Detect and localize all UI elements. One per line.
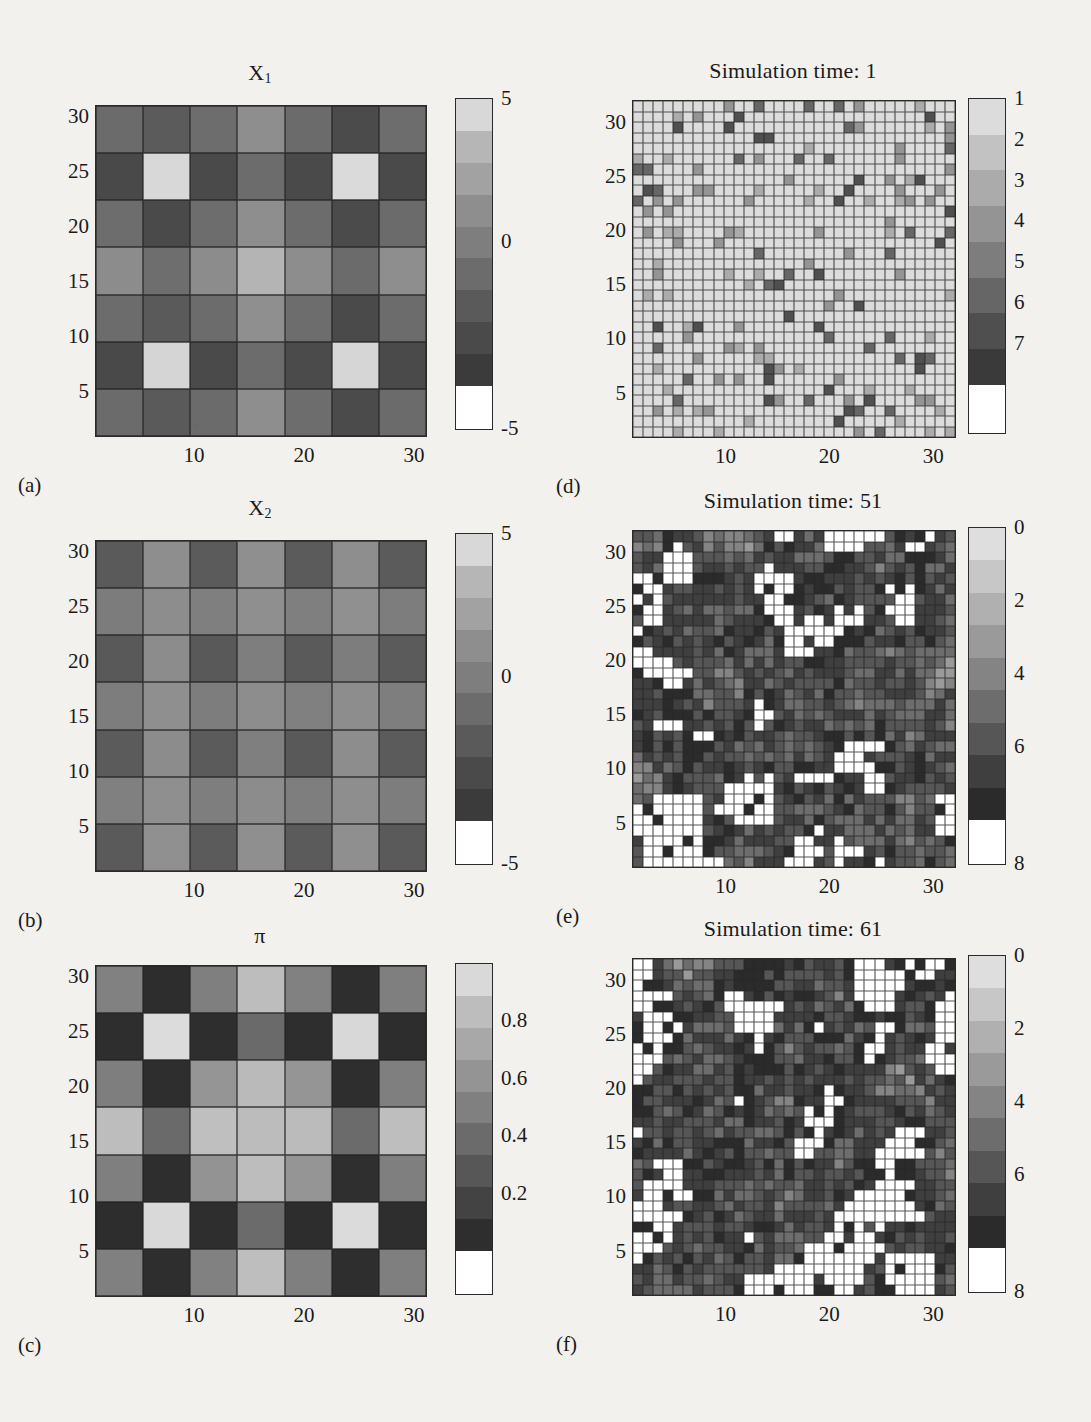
heatmap-cell — [784, 1127, 794, 1138]
heatmap-cell — [633, 1085, 643, 1096]
heatmap-cell — [784, 959, 794, 970]
heatmap-cell — [885, 1274, 895, 1285]
heatmap-cell — [854, 1201, 864, 1212]
heatmap-cell — [643, 1001, 653, 1012]
heatmap-cell — [754, 1138, 764, 1149]
heatmap-cell — [673, 1054, 683, 1065]
heatmap-cell — [774, 1022, 784, 1033]
heatmap-cell — [673, 1274, 683, 1285]
heatmap-cell — [663, 959, 673, 970]
heatmap-cell — [895, 1033, 905, 1044]
heatmap-cell — [875, 1001, 885, 1012]
heatmap-cell — [663, 1190, 673, 1201]
heatmap-cell — [935, 1043, 945, 1054]
heatmap-cell — [734, 1169, 744, 1180]
heatmap-cell — [653, 1001, 663, 1012]
heatmap-cell — [794, 1264, 804, 1275]
heatmap-cell — [925, 1064, 935, 1075]
colorbar-band — [969, 1053, 1005, 1085]
heatmap-cell — [784, 1001, 794, 1012]
heatmap-cell — [633, 980, 643, 991]
heatmap-cell — [804, 1022, 814, 1033]
heatmap-cell — [703, 991, 713, 1002]
heatmap-cell — [844, 1148, 854, 1159]
heatmap-cell — [784, 991, 794, 1002]
heatmap-cell — [774, 1243, 784, 1254]
heatmap-cell — [784, 1190, 794, 1201]
heatmap-cell — [764, 1075, 774, 1086]
heatmap-cell — [774, 1106, 784, 1117]
heatmap-cell — [915, 980, 925, 991]
heatmap-cell — [935, 1190, 945, 1201]
heatmap-cell — [834, 1243, 844, 1254]
heatmap-cell — [945, 1222, 955, 1233]
heatmap-cell — [885, 1127, 895, 1138]
heatmap-cell — [794, 980, 804, 991]
heatmap-cell — [935, 1253, 945, 1264]
heatmap-cell — [895, 1117, 905, 1128]
heatmap-cell — [683, 1253, 693, 1264]
heatmap-cell — [703, 1096, 713, 1107]
heatmap-cell — [854, 1222, 864, 1233]
heatmap-cell — [643, 1106, 653, 1117]
heatmap-cell — [935, 1180, 945, 1191]
heatmap-cell — [724, 1264, 734, 1275]
heatmap-cell — [875, 991, 885, 1002]
heatmap-cell — [653, 1159, 663, 1170]
heatmap-cell — [854, 1075, 864, 1086]
heatmap-cell — [653, 1085, 663, 1096]
heatmap-cell — [794, 991, 804, 1002]
heatmap-cell — [653, 1043, 663, 1054]
heatmap-cell — [834, 959, 844, 970]
heatmap-cell — [633, 1253, 643, 1264]
heatmap-cell — [764, 970, 774, 981]
heatmap-cell — [804, 1169, 814, 1180]
heatmap-cell — [643, 1232, 653, 1243]
heatmap-cell — [633, 991, 643, 1002]
heatmap-cell — [925, 1211, 935, 1222]
heatmap-cell — [784, 1064, 794, 1075]
heatmap-cell — [744, 1148, 754, 1159]
heatmap-cell — [764, 1222, 774, 1233]
heatmap-cell — [895, 1022, 905, 1033]
heatmap-cell — [935, 970, 945, 981]
heatmap-cell — [724, 1285, 734, 1296]
heatmap-cell — [744, 1022, 754, 1033]
heatmap-cell — [935, 991, 945, 1002]
heatmap-cell — [643, 1190, 653, 1201]
heatmap-cell — [764, 1064, 774, 1075]
heatmap-cell — [824, 1253, 834, 1264]
heatmap-cell — [784, 1159, 794, 1170]
heatmap-cell — [804, 970, 814, 981]
heatmap-cell — [864, 1096, 874, 1107]
heatmap-cell — [814, 1211, 824, 1222]
heatmap-cell — [683, 1064, 693, 1075]
x-tick-label: 10 — [715, 1302, 736, 1327]
heatmap-cell — [714, 1085, 724, 1096]
heatmap-cell — [693, 1253, 703, 1264]
heatmap-cell — [895, 1138, 905, 1149]
heatmap-cell — [804, 1264, 814, 1275]
heatmap-cell — [804, 1085, 814, 1096]
heatmap-cell — [875, 1222, 885, 1233]
heatmap-cell — [663, 1022, 673, 1033]
heatmap-cell — [905, 980, 915, 991]
heatmap-cell — [724, 1211, 734, 1222]
heatmap-cell — [764, 980, 774, 991]
heatmap-cell — [864, 1201, 874, 1212]
heatmap-cell — [724, 1201, 734, 1212]
heatmap-cell — [915, 1117, 925, 1128]
heatmap-cell — [744, 980, 754, 991]
panel-f: Simulation time: 61302520151051020308642… — [0, 0, 1091, 1422]
heatmap-cell — [895, 1180, 905, 1191]
heatmap-cell — [864, 1012, 874, 1023]
heatmap-cell — [794, 1285, 804, 1296]
heatmap-cell — [764, 1033, 774, 1044]
heatmap-cell — [834, 1012, 844, 1023]
heatmap-cell — [683, 959, 693, 970]
heatmap-cell — [824, 1043, 834, 1054]
heatmap-cell — [834, 1022, 844, 1033]
heatmap-cell — [774, 1201, 784, 1212]
heatmap-cell — [683, 1043, 693, 1054]
heatmap-cell — [945, 1264, 955, 1275]
